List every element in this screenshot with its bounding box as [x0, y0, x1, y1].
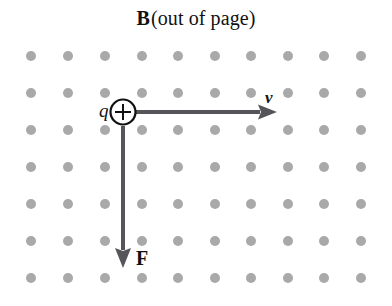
velocity-label: v: [265, 89, 273, 106]
force-label: F: [136, 248, 148, 268]
charge-label: q: [99, 101, 109, 120]
velocity-vector: [136, 105, 277, 120]
vector-layer: [0, 0, 392, 306]
force-vector: [115, 126, 131, 268]
positive-charge-marker: [111, 100, 136, 125]
force-arrow-head: [115, 248, 131, 268]
physics-figure: B(out of page) q v F: [0, 0, 392, 306]
